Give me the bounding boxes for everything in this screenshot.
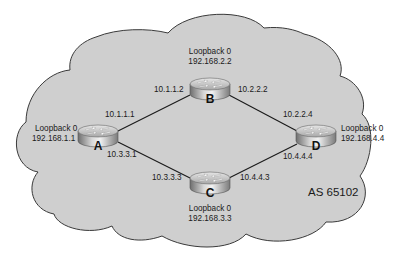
loopback-label: Loopback 0 xyxy=(35,124,78,133)
interface-ip-c-to-d: 10.4.4.3 xyxy=(240,173,270,182)
interface-ip-c-to-a: 10.3.3.3 xyxy=(152,173,182,182)
loopback-ip: 192.168.1.1 xyxy=(32,134,76,143)
interface-ip-a-to-b: 10.1.1.1 xyxy=(105,110,135,119)
interface-ip-b-to-d: 10.2.2.2 xyxy=(238,85,268,94)
loopback-label: Loopback 0 xyxy=(341,124,384,133)
loopback-label: Loopback 0 xyxy=(189,204,232,213)
interface-ip-b-to-a: 10.1.1.2 xyxy=(154,85,184,94)
as-number-label: AS 65102 xyxy=(308,186,359,198)
router-name: D xyxy=(312,139,321,153)
network-diagram: B Loopback 0 192.168.2.2 A Loopback 0 19… xyxy=(0,0,420,263)
loopback-ip: 192.168.2.2 xyxy=(188,57,232,66)
loopback-ip: 192.168.3.3 xyxy=(188,214,232,223)
router-name: B xyxy=(206,92,215,106)
interface-ip-d-to-c: 10.4.4.4 xyxy=(283,152,313,161)
router-name: C xyxy=(206,186,215,200)
loopback-label: Loopback 0 xyxy=(189,47,232,56)
router-name: A xyxy=(94,139,103,153)
interface-ip-d-to-b: 10.2.2.4 xyxy=(283,110,313,119)
interface-ip-a-to-c: 10.3.3.1 xyxy=(107,150,137,159)
loopback-ip: 192.168.4.4 xyxy=(341,134,385,143)
